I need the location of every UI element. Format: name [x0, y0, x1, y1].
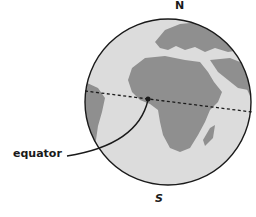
south-label: S: [155, 192, 163, 205]
globe-diagram: [0, 0, 256, 217]
north-label: N: [175, 0, 184, 12]
equator-label: equator: [13, 147, 62, 160]
